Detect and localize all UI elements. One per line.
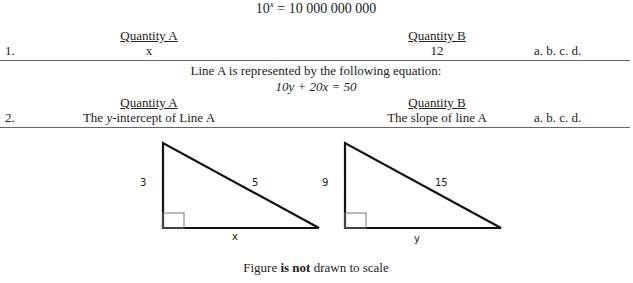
- caption-prefix: Figure: [243, 260, 280, 275]
- caption-suffix: drawn to scale: [310, 260, 388, 275]
- figure-caption: Figure is not drawn to scale: [243, 260, 389, 276]
- t2-horizontal-leg-label: y: [414, 233, 420, 244]
- t1-horizontal-leg-label: x: [232, 231, 238, 242]
- triangles-figure: [0, 0, 633, 283]
- t1-vertical-leg-label: 3: [140, 177, 146, 188]
- t2-vertical-leg-label: 9: [322, 177, 328, 188]
- t2-hypotenuse-label: 15: [435, 177, 448, 188]
- t1-hypotenuse-label: 5: [252, 177, 258, 188]
- caption-bold: is not: [280, 260, 310, 275]
